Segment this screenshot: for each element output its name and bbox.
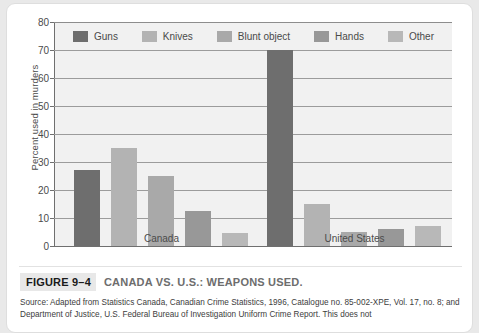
y-tick-label-40: 40 (38, 129, 49, 140)
x-group-label-united-states: United States (324, 233, 384, 244)
y-tick-label-80: 80 (38, 17, 49, 28)
bar-canada-knives (111, 148, 137, 246)
y-axis-label: Percent used in murders (29, 43, 40, 193)
gridline-60 (54, 78, 452, 79)
y-tick-label-10: 10 (38, 213, 49, 224)
x-group-label-canada: Canada (144, 233, 179, 244)
bar-united-states-guns (267, 50, 293, 246)
legend-label-blunt-object: Blunt object (238, 31, 290, 42)
y-tick-mark-20 (50, 190, 54, 191)
legend-item-hands: Hands (314, 31, 364, 42)
y-tick-mark-0 (50, 246, 54, 247)
legend-item-blunt-object: Blunt object (217, 31, 290, 42)
y-tick-label-0: 0 (43, 241, 49, 252)
y-tick-label-60: 60 (38, 73, 49, 84)
y-tick-mark-50 (50, 106, 54, 107)
gridline-80 (54, 22, 452, 23)
gridline-40 (54, 134, 452, 135)
y-tick-mark-10 (50, 218, 54, 219)
gridline-70 (54, 50, 452, 51)
y-tick-mark-80 (50, 22, 54, 23)
figure-number-badge: FIGURE 9–4 (20, 273, 96, 291)
chart-legend: GunsKnivesBlunt objectHandsOther (55, 26, 452, 46)
y-tick-mark-70 (50, 50, 54, 51)
figure-caption: FIGURE 9–4 CANADA VS. U.S.: WEAPONS USED… (20, 273, 303, 291)
gridline-50 (54, 106, 452, 107)
legend-label-other: Other (409, 31, 434, 42)
legend-label-hands: Hands (335, 31, 364, 42)
x-axis-line (54, 246, 452, 247)
y-tick-mark-40 (50, 134, 54, 135)
caption-divider (19, 266, 462, 267)
figure-card: Percent used in murders 0102030405060708… (6, 3, 473, 333)
legend-item-guns: Guns (73, 31, 118, 42)
y-tick-mark-60 (50, 78, 54, 79)
legend-swatch-icon-hands (314, 31, 329, 42)
y-tick-label-70: 70 (38, 45, 49, 56)
figure-title: CANADA VS. U.S.: WEAPONS USED. (104, 276, 303, 288)
legend-swatch-icon-knives (142, 31, 157, 42)
legend-swatch-icon-blunt-object (217, 31, 232, 42)
chart-container: Percent used in murders 0102030405060708… (7, 4, 474, 269)
bar-united-states-other (415, 226, 441, 246)
legend-swatch-icon-guns (73, 31, 88, 42)
bar-canada-other (222, 233, 248, 246)
bar-canada-hands (185, 211, 211, 246)
legend-item-knives: Knives (142, 31, 193, 42)
bar-canada-guns (74, 170, 100, 246)
legend-item-other: Other (388, 31, 434, 42)
y-tick-label-30: 30 (38, 157, 49, 168)
y-tick-label-50: 50 (38, 101, 49, 112)
y-tick-label-20: 20 (38, 185, 49, 196)
plot-area: 01020304050607080 (54, 22, 452, 247)
legend-swatch-icon-other (388, 31, 403, 42)
figure-source-note: Source: Adapted from Statistics Canada, … (20, 297, 464, 320)
legend-label-guns: Guns (94, 31, 118, 42)
y-tick-mark-30 (50, 162, 54, 163)
legend-label-knives: Knives (163, 31, 193, 42)
